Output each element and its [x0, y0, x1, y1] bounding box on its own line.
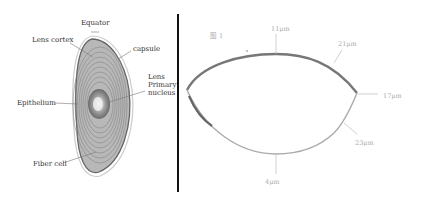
capsule-thickness-outline	[187, 34, 378, 174]
label-thickness-lower-right: 23μm	[355, 139, 374, 147]
label-nucleus: nucleus	[148, 89, 175, 97]
label-thickness-upper-right: 21μm	[338, 40, 357, 48]
label-thickness-top: 11μm	[271, 25, 290, 33]
label-thickness-right: 17μm	[383, 92, 402, 100]
lens-diagram-canvas	[0, 0, 427, 206]
label-fiber-cell: Fiber cell	[33, 160, 67, 168]
label-lens: Lens	[148, 73, 165, 81]
label-figure-number: 图 1	[210, 32, 223, 40]
label-lens-cortex: Lens cortex	[32, 36, 74, 44]
label-equator: Equator	[81, 19, 110, 27]
label-epithelium: Epithelium	[17, 99, 56, 107]
label-thickness-bottom: 4μm	[265, 178, 280, 186]
lens-cross-section	[55, 32, 145, 177]
label-capsule: capsule	[133, 45, 160, 53]
label-primary: Primary	[148, 81, 176, 89]
